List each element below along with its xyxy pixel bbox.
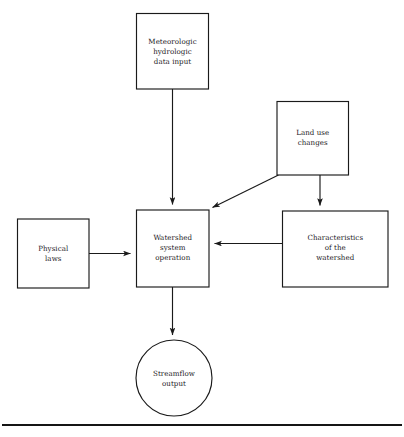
edge-landuse-to-watershed <box>213 175 279 208</box>
node-label-land-use-changes-line-2: changes <box>298 138 328 147</box>
node-label-characteristics-of-watershed-line-1: Characteristics <box>307 233 363 242</box>
node-label-characteristics-of-watershed-line-3: watershed <box>316 253 355 262</box>
node-label-watershed-system-operation-line-3: operation <box>155 253 190 262</box>
node-label-meteorologic-input-line-2: hydrologic <box>153 47 192 56</box>
node-streamflow-output[interactable]: Streamflow output <box>136 340 212 416</box>
node-label-streamflow-output-line-2: output <box>162 379 186 388</box>
node-land-use-changes[interactable]: Land use changes <box>277 102 349 176</box>
node-meteorologic-input[interactable]: Meteorologic hydrologic data input <box>137 14 209 90</box>
node-watershed-system-operation[interactable]: Watershed system operation <box>137 210 210 287</box>
node-label-meteorologic-input-line-1: Meteorologic <box>148 37 196 46</box>
diagram-canvas: Meteorologic hydrologic data input Land … <box>0 0 404 437</box>
node-label-physical-laws-line-1: Physical <box>38 244 69 253</box>
flow-diagram: Meteorologic hydrologic data input Land … <box>0 0 404 437</box>
node-label-streamflow-output-line-1: Streamflow <box>153 369 195 378</box>
node-characteristics-of-watershed[interactable]: Characteristics of the watershed <box>283 211 389 287</box>
node-label-meteorologic-input-line-3: data input <box>154 57 192 66</box>
node-label-watershed-system-operation-line-1: Watershed <box>153 233 192 242</box>
node-label-characteristics-of-watershed-line-2: of the <box>325 243 346 252</box>
node-label-watershed-system-operation-line-2: system <box>160 243 186 252</box>
node-physical-laws[interactable]: Physical laws <box>18 219 90 288</box>
edge-line-landuse-to-watershed <box>213 175 279 208</box>
node-label-land-use-changes-line-1: Land use <box>296 128 329 137</box>
node-label-physical-laws-line-2: laws <box>45 254 62 263</box>
